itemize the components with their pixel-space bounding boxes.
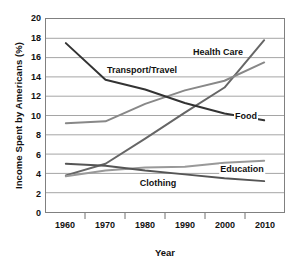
y-tick-label: 16 (17, 52, 41, 62)
x-tick-label: 2010 (245, 220, 285, 230)
y-tick-label: 14 (17, 72, 41, 82)
series-label-clothing: Clothing (139, 178, 178, 188)
x-tick-label: 1970 (85, 220, 125, 230)
series-label-health-care: Health Care (192, 47, 244, 57)
y-tick-label: 20 (17, 13, 41, 23)
series-label-transport-travel: Transport/Travel (106, 65, 178, 75)
y-tick-label: 10 (17, 111, 41, 121)
line-chart: Income Spent by Americans (%) 0246810121… (0, 0, 304, 270)
x-tick-label: 1960 (45, 220, 85, 230)
x-axis-tick-marks (45, 213, 285, 220)
x-tick-label: 2000 (205, 220, 245, 230)
x-tick-label: 1980 (125, 220, 165, 230)
x-tick-label: 1990 (165, 220, 205, 230)
y-tick-label: 18 (17, 33, 41, 43)
y-tick-label: 0 (17, 208, 41, 218)
y-tick-label: 6 (17, 150, 41, 160)
series-line (66, 40, 264, 175)
y-tick-label: 12 (17, 91, 41, 101)
x-axis-title: Year (45, 247, 285, 258)
y-tick-label: 8 (17, 130, 41, 140)
series-label-education: Education (219, 164, 265, 174)
plot-area: Health CareTransport/TravelFoodEducation… (45, 18, 285, 213)
y-tick-label: 2 (17, 189, 41, 199)
y-tick-label: 4 (17, 169, 41, 179)
series-label-food: Food (234, 111, 258, 121)
